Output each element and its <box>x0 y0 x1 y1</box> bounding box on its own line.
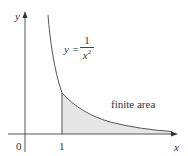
one-tick-label: 1 <box>59 141 65 152</box>
x-axis-label: x <box>174 142 179 153</box>
equation-lhs: y = <box>64 44 79 55</box>
origin-tick-label: 0 <box>16 141 22 152</box>
equation-numerator: 1 <box>82 35 92 46</box>
y-axis-arrow-icon <box>23 11 28 18</box>
y-axis-label: y <box>15 11 20 22</box>
finite-area-label: finite area <box>111 99 155 110</box>
equation-fraction: 1 x2 <box>80 35 94 61</box>
denominator-exponent: 2 <box>88 48 92 56</box>
graph-canvas <box>0 0 188 156</box>
equation-denominator: x2 <box>83 49 91 61</box>
x-axis-arrow-icon <box>171 132 178 137</box>
